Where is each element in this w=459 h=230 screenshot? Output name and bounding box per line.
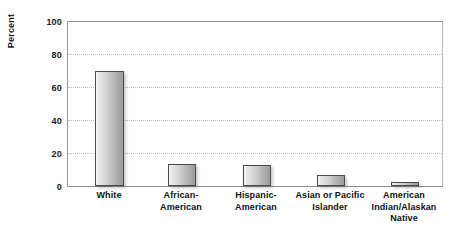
bar-chart: Percent 100 80 60 40 20 0 White African-…	[0, 0, 459, 230]
x-label-american-indian-alaskan-native: American Indian/Alaskan Native	[359, 190, 449, 225]
bars-layer	[68, 22, 442, 186]
y-tick-label-20: 20	[28, 149, 62, 159]
x-label-hispanic-american: Hispanic- American	[220, 190, 292, 213]
y-tick-label-0: 0	[28, 182, 62, 192]
bar-african-american	[168, 164, 196, 186]
plot-area	[67, 21, 443, 187]
bar-american-indian-alaskan-native	[391, 182, 419, 186]
bar-hispanic-american	[243, 165, 271, 186]
x-label-line: Indian/Alaskan	[359, 202, 449, 214]
y-tick-label-80: 80	[28, 50, 62, 60]
x-label-line: African-	[145, 190, 217, 202]
x-axis-category-labels: White African- American Hispanic- Americ…	[67, 190, 443, 230]
x-label-line: White	[73, 190, 145, 202]
x-label-line: Hispanic-	[220, 190, 292, 202]
x-label-line: American	[220, 202, 292, 214]
y-axis-tick-labels: 100 80 60 40 20 0	[28, 0, 62, 230]
y-tick-label-100: 100	[28, 17, 62, 27]
bar-asian-or-pacific-islander	[317, 175, 345, 186]
x-label-line: Native	[359, 213, 449, 225]
y-tick-label-40: 40	[28, 116, 62, 126]
y-tick-label-60: 60	[28, 83, 62, 93]
bar-white	[95, 71, 124, 186]
x-label-line: American	[145, 202, 217, 214]
y-axis-title: Percent	[6, 0, 24, 76]
x-label-white: White	[73, 190, 145, 202]
x-label-line: American	[359, 190, 449, 202]
x-label-african-american: African- American	[145, 190, 217, 213]
